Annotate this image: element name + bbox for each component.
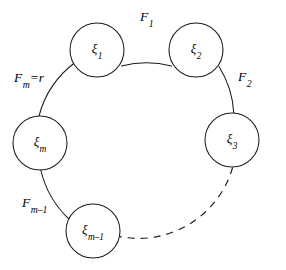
edge-label-F-m-base: F [14, 70, 22, 85]
node-label-xi-3: ξ3 [227, 132, 238, 149]
edge-label-F-m-minus-1-base: F [22, 195, 30, 210]
edge-label-F-2: F2 [238, 70, 252, 86]
node-label-xi-m: ξm [34, 135, 47, 152]
node-label-xi-m-minus-1-subscript: m–1 [88, 231, 104, 241]
node-label-xi-2-subscript: 2 [197, 50, 202, 60]
node-label-xi-2: ξ2 [191, 42, 202, 59]
node-label-xi-3-base: ξ [227, 131, 233, 146]
edge-label-F-m-equals-r: Fm=r [14, 71, 44, 87]
arc-xi1-xi2 [122, 63, 172, 66]
node-label-xi-m-minus-1: ξm–1 [82, 223, 104, 240]
node-label-xi-2-base: ξ [191, 41, 197, 56]
edge-label-F-1: F1 [140, 10, 154, 26]
edge-label-F-m-suffix: =r [30, 70, 44, 85]
edge-label-F-m-minus-1-subscript: m–1 [31, 204, 48, 215]
edge-label-F-2-subscript: 2 [247, 78, 252, 89]
edge-label-F-2-base: F [238, 69, 246, 84]
node-label-xi-m-subscript: m [40, 143, 47, 153]
edge-label-F-m-minus-1: Fm–1 [22, 196, 47, 212]
edge-label-F-m-subscript: m [23, 79, 30, 90]
node-label-xi-1: ξ1 [92, 42, 103, 59]
arc-xim-xi1 [39, 63, 75, 117]
arc-xi2-xi3 [219, 67, 234, 114]
node-label-xi-1-base: ξ [92, 41, 98, 56]
edge-label-F-1-base: F [140, 9, 148, 24]
ring-diagram-figure: ξ1 ξ2 ξ3 ξm ξm–1 F1 F2 Fm=r Fm–1 [0, 0, 286, 270]
node-label-xi-m-base: ξ [34, 134, 40, 149]
node-label-xi-3-subscript: 3 [233, 140, 238, 150]
arc-xi3-xim1-dashed [120, 168, 233, 239]
node-label-xi-1-subscript: 1 [98, 50, 103, 60]
node-label-xi-m-minus-1-base: ξ [82, 222, 88, 237]
edge-label-F-1-subscript: 1 [149, 18, 154, 29]
